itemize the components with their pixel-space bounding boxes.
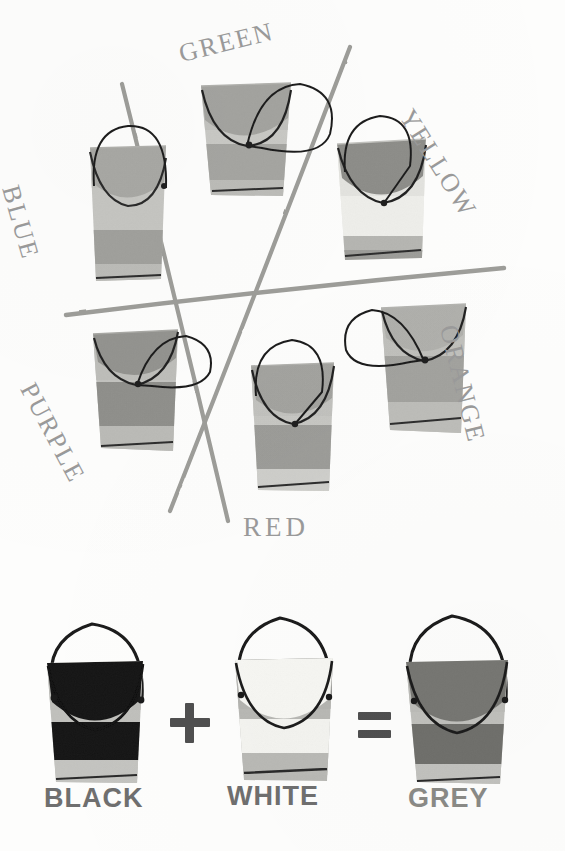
bucket-grey-handle-knob-left (411, 698, 417, 704)
bucket-black-group (45, 624, 145, 786)
wheel-label-blue-text: BLUE (0, 182, 45, 263)
bucket-grey-body (404, 660, 510, 788)
bucket-blue-body (88, 144, 170, 284)
bucket-grey-base-line (417, 777, 500, 781)
wheel-label-green: GREEN (176, 17, 277, 69)
bucket-red-handle-knob (292, 421, 298, 427)
bucket-red-handle (256, 340, 323, 424)
wheel-label-blue: BLUE (0, 182, 45, 263)
wheel-label-orange: ORANGE (433, 322, 491, 446)
mix-label-white: WHITE (227, 781, 319, 812)
wheel-label-orange-text: ORANGE (434, 322, 491, 446)
bucket-white-handle-knob-left (238, 692, 244, 698)
bucket-red-base-line (258, 482, 329, 487)
bucket-grey-handle (410, 616, 507, 700)
bucket-white-base-line (244, 769, 327, 773)
bucket-blue-handle (94, 126, 166, 188)
bucket-purple-handle-knob (135, 381, 141, 387)
bucket-grey-handle-knob-right (502, 697, 508, 703)
bucket-black-handle-knob-right (138, 697, 145, 704)
bucket-blue-paint-edge (90, 152, 166, 206)
mix-label-black-text: BLACK (44, 783, 144, 813)
bucket-orange-rim (381, 304, 466, 308)
bucket-purple-group (91, 330, 211, 454)
bucket-purple-handle (137, 336, 211, 387)
mix-label-black: BLACK (44, 783, 144, 814)
bucket-blue-base-line (96, 275, 161, 278)
bucket-black-handle (51, 624, 142, 700)
axis-blue-orange (66, 268, 504, 315)
wheel-axis-lines (66, 47, 504, 521)
bucket-red-paint-edge (252, 366, 334, 424)
bucket-yellow-base-line (345, 250, 421, 256)
illustration-page: GREEN YELLOW ORANGE RED PURPLE BLUE BLAC… (0, 0, 565, 851)
bucket-yellow-handle-knob (381, 200, 387, 206)
bucket-green-handle-knob (246, 142, 253, 149)
bucket-orange-handle-knob (422, 357, 429, 364)
bucket-white-handle (238, 618, 330, 696)
bucket-purple-body (91, 330, 181, 454)
bucket-white-paint-edge (236, 661, 332, 728)
bucket-blue-group (88, 126, 170, 284)
wheel-label-yellow-text: YELLOW (393, 104, 482, 223)
bucket-white-handle-knob-right (326, 694, 332, 700)
wheel-label-green-text: GREEN (176, 17, 277, 69)
bucket-black-base-line (56, 775, 137, 779)
bucket-grey-paint-edge (407, 662, 507, 733)
bucket-green-body (199, 82, 294, 200)
bucket-green-rim (201, 83, 291, 86)
bucket-green-base-line (212, 188, 283, 191)
bucket-green-handle (247, 84, 332, 152)
wheel-label-yellow: YELLOW (393, 104, 483, 223)
axis-yellow-purple (170, 47, 350, 511)
wheel-label-purple: PURPLE (14, 378, 92, 488)
bucket-orange-handle (345, 310, 424, 366)
bucket-white-body (233, 657, 335, 783)
wheel-label-red-text: RED (243, 512, 309, 542)
bucket-red-rim (251, 363, 334, 366)
bucket-black-paint-edge (48, 664, 143, 730)
bucket-blue-rim (90, 146, 166, 148)
bucket-blue-handle-knob (161, 183, 167, 189)
mix-label-white-text: WHITE (227, 781, 319, 811)
operator-plus-icon (170, 703, 210, 743)
bucket-red-group (249, 340, 337, 494)
bucket-green-group (199, 82, 332, 200)
wheel-label-red: RED (243, 512, 309, 543)
axis-green-red (122, 84, 228, 521)
bucket-orange-base-line (390, 418, 461, 424)
bucket-green-paint-edge (202, 90, 291, 146)
bucket-purple-base-line (101, 442, 173, 446)
operator-equals-icon (358, 712, 391, 738)
bucket-red-body (249, 362, 337, 494)
wheel-label-purple-text: PURPLE (14, 378, 91, 488)
mix-label-grey: GREY (408, 783, 489, 814)
bucket-white-group (233, 618, 335, 783)
bucket-purple-paint-edge (94, 332, 178, 385)
bucket-black-body (45, 660, 145, 786)
bucket-grey-group (404, 616, 510, 788)
mix-label-grey-text: GREY (408, 783, 489, 813)
bucket-black-handle-knob-left (51, 695, 58, 702)
bucket-purple-rim (93, 330, 178, 334)
